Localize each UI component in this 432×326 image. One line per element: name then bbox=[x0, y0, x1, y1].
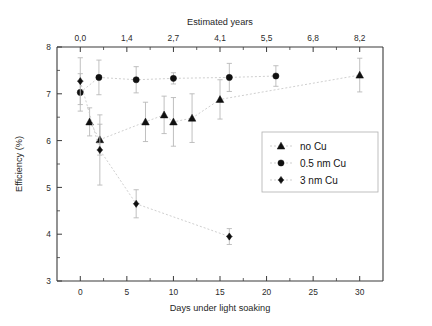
data-point-circle bbox=[273, 73, 279, 79]
x-tick-label: 25 bbox=[308, 287, 318, 297]
efficiency-vs-light-soaking-chart: 3456780510152025300,01,42,74,15,56,88,2D… bbox=[0, 0, 432, 326]
x-tick-label: 15 bbox=[215, 287, 225, 297]
top-tick-label: 2,7 bbox=[168, 33, 180, 43]
x-tick-label: 10 bbox=[169, 287, 179, 297]
legend-label: 3 nm Cu bbox=[300, 175, 338, 186]
data-point-triangle bbox=[170, 118, 178, 125]
top-axis-title: Estimated years bbox=[187, 17, 253, 27]
top-tick-label: 5,5 bbox=[261, 33, 273, 43]
legend-label: no Cu bbox=[300, 141, 327, 152]
y-tick-label: 8 bbox=[46, 42, 51, 52]
series-line bbox=[90, 75, 360, 140]
y-tick-label: 3 bbox=[46, 276, 51, 286]
legend-label: 0.5 nm Cu bbox=[300, 158, 346, 169]
y-axis-title: Efficiency (%) bbox=[14, 136, 24, 192]
series-line bbox=[80, 76, 276, 92]
top-tick-label: 1,4 bbox=[121, 33, 133, 43]
data-point-circle bbox=[96, 74, 102, 80]
top-tick-label: 8,2 bbox=[354, 33, 366, 43]
data-point-circle bbox=[226, 74, 232, 80]
legend-marker-circle bbox=[278, 160, 284, 166]
data-point-triangle bbox=[160, 111, 168, 118]
data-point-circle bbox=[133, 77, 139, 83]
top-tick-label: 4,1 bbox=[214, 33, 226, 43]
y-tick-label: 6 bbox=[46, 136, 51, 146]
x-tick-label: 5 bbox=[125, 287, 130, 297]
x-tick-label: 0 bbox=[78, 287, 83, 297]
y-tick-label: 5 bbox=[46, 183, 51, 193]
chart-canvas: 3456780510152025300,01,42,74,15,56,88,2D… bbox=[0, 0, 432, 326]
x-axis-title: Days under light soaking bbox=[170, 303, 271, 313]
data-point-triangle bbox=[188, 114, 196, 121]
top-tick-label: 6,8 bbox=[307, 33, 319, 43]
y-tick-label: 7 bbox=[46, 89, 51, 99]
series-line bbox=[80, 81, 229, 236]
data-point-triangle bbox=[356, 71, 364, 78]
top-tick-label: 0,0 bbox=[74, 33, 86, 43]
x-tick-label: 20 bbox=[262, 287, 272, 297]
data-point-triangle bbox=[142, 118, 150, 125]
y-tick-label: 4 bbox=[46, 229, 51, 239]
data-point-circle bbox=[170, 75, 176, 81]
x-tick-label: 30 bbox=[355, 287, 365, 297]
